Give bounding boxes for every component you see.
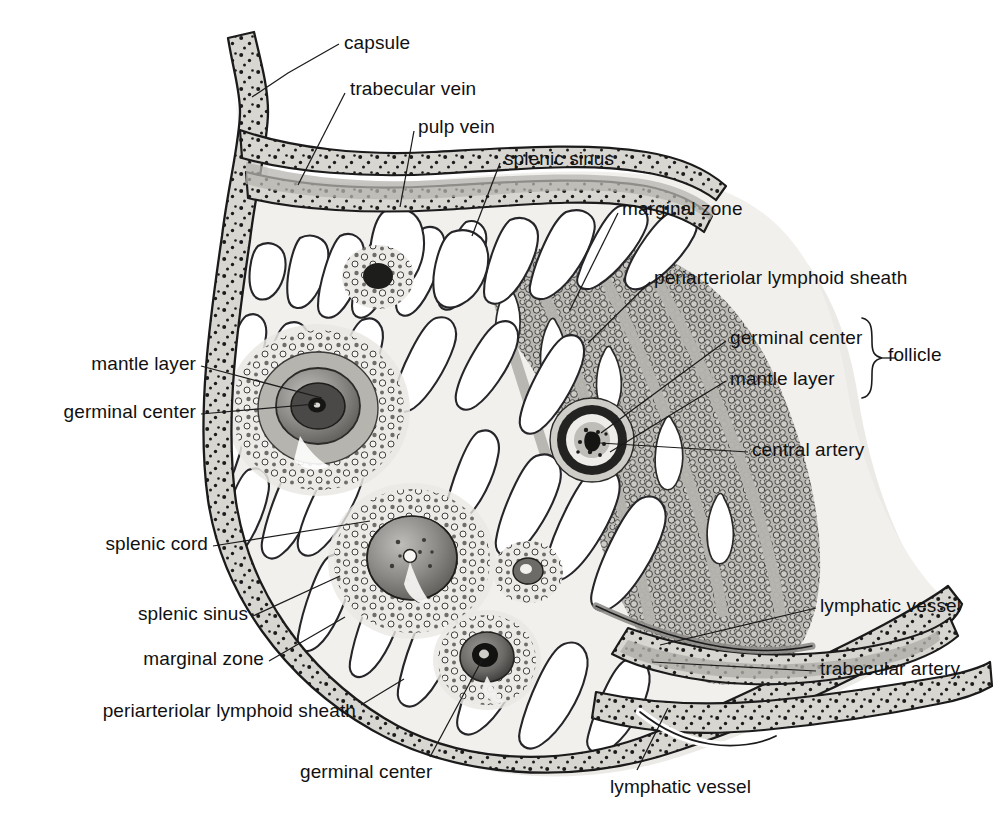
label-follicle: follicle <box>888 344 942 366</box>
label-marginal-zone-left: marginal zone <box>143 648 264 670</box>
leader-capsule <box>252 44 339 97</box>
follicle-white-pulp <box>550 398 634 482</box>
label-periarteriolar-lymphoid-sheath-top: periarteriolar lymphoid sheath <box>654 267 907 289</box>
label-germinal-center-left: germinal center <box>64 401 196 423</box>
label-germinal-center-bottom: germinal center <box>300 761 432 783</box>
label-lymphatic-vessel-right: lymphatic vessel <box>820 595 961 617</box>
label-marginal-zone-top: marginal zone <box>622 198 743 220</box>
label-splenic-cord: splenic cord <box>105 533 208 555</box>
label-central-artery: central artery <box>752 439 864 461</box>
follicle-small-upper <box>342 245 414 309</box>
label-periarteriolar-lymphoid-sheath-left: periarteriolar lymphoid sheath <box>103 700 356 722</box>
follicle-small-lower <box>493 541 563 603</box>
label-splenic-sinus-top: splenic sinus <box>504 148 614 170</box>
label-trabecular-artery: trabecular artery <box>820 658 960 680</box>
label-mantle-layer-right: mantle layer <box>730 368 835 390</box>
label-trabecular-vein: trabecular vein <box>350 78 476 100</box>
label-lymphatic-vessel-bottom: lymphatic vessel <box>610 776 751 798</box>
spleen-diagram-page: capsuletrabecular veinpulp veinsplenic s… <box>0 0 1000 830</box>
label-splenic-sinus-left: splenic sinus <box>138 603 248 625</box>
label-mantle-layer-left: mantle layer <box>91 353 196 375</box>
label-germinal-center-right: germinal center <box>730 327 862 349</box>
label-pulp-vein: pulp vein <box>418 116 495 138</box>
label-capsule: capsule <box>344 32 410 54</box>
follicle-bottom <box>433 610 541 710</box>
